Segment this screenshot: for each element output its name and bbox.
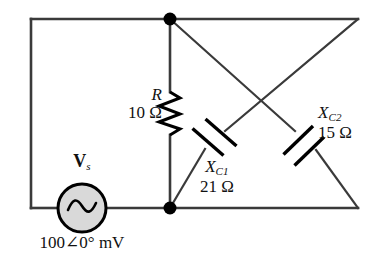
capacitor1-value: 21 Ω [200,177,234,196]
source-value-label: 100∠0° mV [16,234,148,252]
resistor-value: 10 Ω [128,103,162,122]
source-symbol-label: Vs [52,152,112,173]
source-symbol-subscript: s [86,160,90,172]
capacitor1-symbol: X [205,157,215,176]
capacitor-plates-icon-xc1 [193,119,237,156]
capacitor1-label: XC1 21 Ω [178,158,256,195]
capacitor2-subscript: C2 [328,111,341,123]
capacitor2-value: 15 Ω [318,123,352,142]
resistor-label: R 10 Ω [104,86,162,121]
capacitor2-label: XC2 15 Ω [318,104,384,141]
source-symbol: V [73,151,86,171]
wire-xc2-upper-lead [170,19,295,131]
junction-node-bottom [164,202,177,215]
circuit-diagram: R 10 Ω Vs 100∠0° mV XC1 21 Ω XC2 15 Ω [0,0,385,271]
junction-node-top [164,13,177,26]
wire-xc2-lower-lead [316,150,358,208]
capacitor1-subscript: C1 [216,165,229,177]
capacitor2-symbol: X [318,103,328,122]
resistor-symbol: R [152,85,162,104]
resistor-zigzag-icon [159,92,180,135]
